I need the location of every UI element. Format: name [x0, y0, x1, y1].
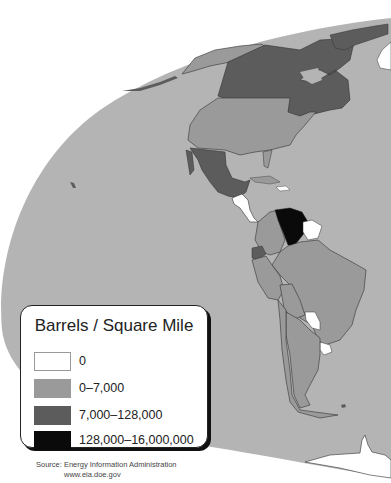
source-line: Source: Energy Information Administratio… — [36, 460, 177, 469]
legend-label: 7,000–128,000 — [79, 408, 162, 422]
legend-label: 128,000–16,000,000 — [79, 433, 194, 447]
legend-label: 0–7,000 — [79, 381, 124, 395]
legend-label: 0 — [79, 354, 86, 368]
legend-item-zero: 0 — [34, 351, 86, 371]
legend-swatch-light-gray — [34, 379, 71, 398]
source-credit: Source: Energy Information Administratio… — [36, 460, 177, 480]
legend-swatch-white — [34, 352, 71, 371]
legend-swatch-black — [34, 431, 71, 450]
legend-item-high: 128,000–16,000,000 — [34, 430, 194, 450]
legend-swatch-dark-gray — [34, 406, 71, 425]
legend-item-low: 0–7,000 — [34, 378, 124, 398]
legend-title: Barrels / Square Mile — [21, 316, 207, 336]
source-url: www.eia.doe.gov — [36, 470, 177, 480]
legend-item-mid: 7,000–128,000 — [34, 405, 162, 425]
legend-box: Barrels / Square Mile 0 0–7,000 7,000–12… — [20, 305, 208, 448]
